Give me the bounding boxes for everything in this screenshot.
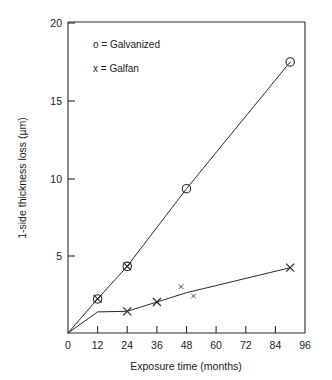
- legend-entry-galfan: x = Galfan: [93, 63, 139, 74]
- series-line-galvanized: [68, 62, 290, 333]
- y-tick-label-15: 15: [50, 95, 62, 107]
- data-point-galfan-36: [153, 298, 161, 306]
- data-point-galfan-90: [286, 264, 294, 272]
- x-axis-ticks: [98, 326, 276, 333]
- x-tick-label-0: 0: [65, 339, 71, 351]
- x-axis-title: Exposure time (months): [130, 360, 241, 372]
- y-tick-label-10: 10: [50, 173, 62, 185]
- x-tick-label-36: 36: [151, 339, 163, 351]
- x-tick-label-84: 84: [270, 339, 282, 351]
- x-tick-label-48: 48: [181, 339, 193, 351]
- line-chart-canvas: 5 10 15 20 0 12 24 36 48 60 72 84 96: [0, 0, 332, 380]
- chart-figure: 5 10 15 20 0 12 24 36 48 60 72 84 96: [0, 0, 332, 380]
- data-point-galfan-12-overlap: [94, 295, 102, 303]
- y-axis-ticks: [68, 23, 75, 256]
- y-tick-label-5: 5: [56, 250, 62, 262]
- y-axis-tick-labels: 5 10 15 20: [50, 17, 62, 262]
- y-axis-title: 1-side thickness loss (µm): [16, 117, 28, 239]
- y-tick-label-20: 20: [50, 17, 62, 29]
- x-tick-label-60: 60: [210, 339, 222, 351]
- x-tick-label-12: 12: [92, 339, 104, 351]
- data-point-galfan-24-overlap: [123, 262, 131, 270]
- data-point-galfan-50-small: [191, 294, 196, 299]
- x-tick-label-96: 96: [299, 339, 311, 351]
- legend-entry-galvanized: o = Galvanized: [93, 39, 160, 50]
- x-tick-label-24: 24: [121, 339, 133, 351]
- chart-legend: o = Galvanized x = Galfan: [93, 39, 160, 74]
- data-point-galfan-45-small: [179, 284, 184, 289]
- series-markers-galfan: [94, 262, 295, 315]
- x-axis-tick-labels: 0 12 24 36 48 60 72 84 96: [65, 339, 311, 351]
- x-tick-label-72: 72: [240, 339, 252, 351]
